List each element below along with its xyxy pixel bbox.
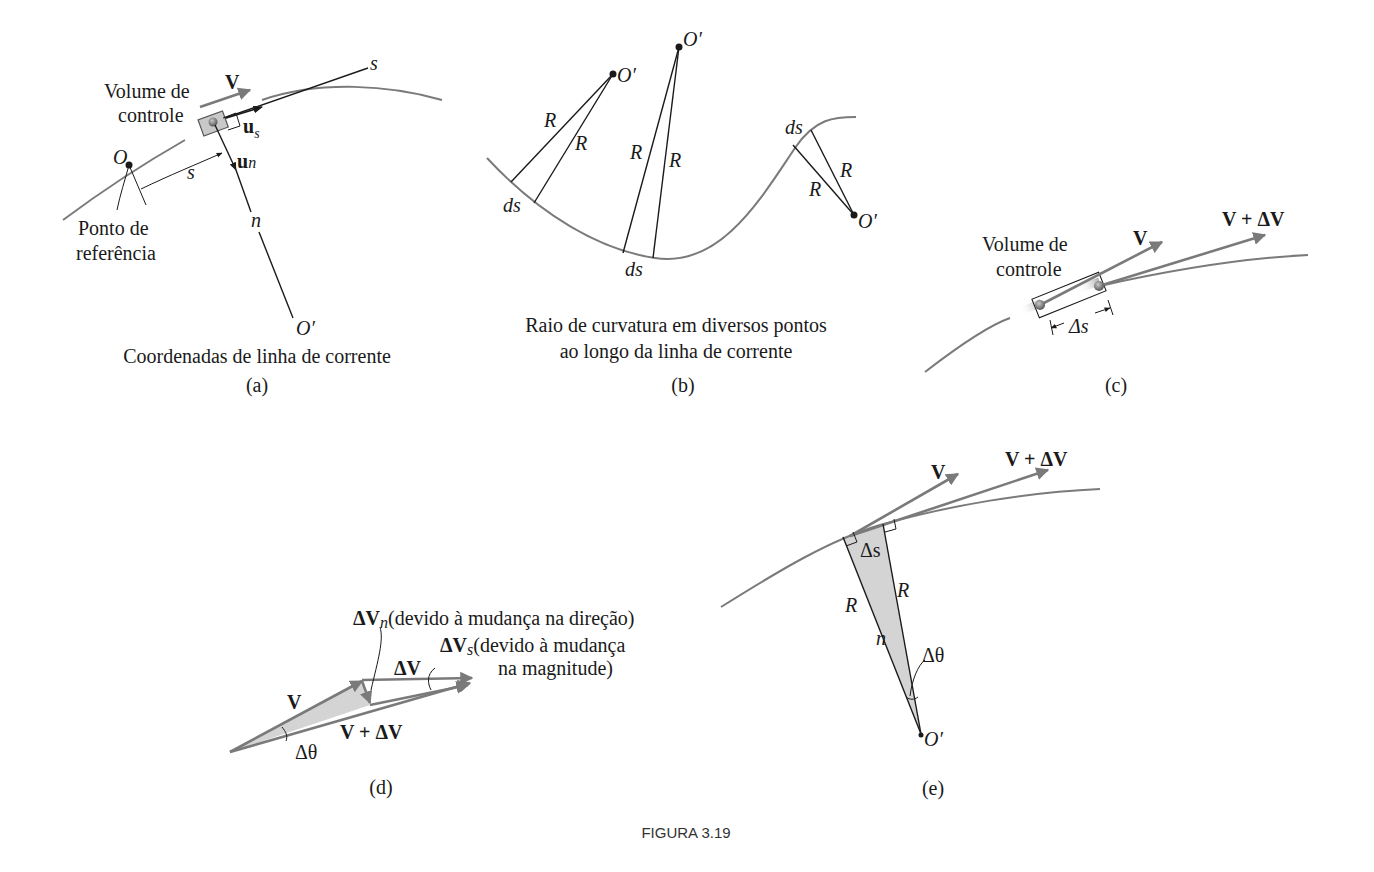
ds-label-1: ds (503, 194, 521, 216)
delta-vs-arrow (370, 685, 468, 705)
n-label: n (251, 209, 261, 231)
volume-label-c-1: Volume de (982, 233, 1068, 255)
ds-label-3: ds (785, 116, 803, 138)
caption-b-2: ao longo da linha de corrente (560, 340, 793, 363)
dv-label: ΔV (394, 657, 422, 679)
letter-e: (e) (922, 777, 944, 800)
reference-label-1: Ponto de (78, 217, 149, 239)
ds-label-2: ds (625, 258, 643, 280)
velocity-label-c: V (1133, 227, 1148, 249)
delta-s-label-c: Δs (1068, 315, 1089, 337)
center-label-b1: O′ (617, 64, 636, 86)
angle-label-e: Δθ (922, 644, 944, 666)
streamline-c (925, 318, 1010, 372)
radius-label-e-right: R (896, 579, 909, 601)
caption-b-1: Raio de curvatura em diversos pontos (525, 314, 827, 337)
n-axis (215, 125, 236, 170)
reference-leader (117, 165, 129, 210)
radius-b1b (534, 74, 613, 203)
dim-tick-right (1108, 300, 1113, 315)
streamline-e (721, 489, 1100, 607)
radius-label-3: R (629, 141, 642, 163)
streamline-b (487, 117, 856, 259)
normal-label-e: n (876, 627, 886, 649)
velocity-label-d: V (287, 691, 302, 713)
radius-label-1: R (543, 109, 556, 131)
volume-label-a-2: controle (118, 104, 184, 126)
s-axis-label: s (370, 52, 378, 74)
particle-a (209, 118, 218, 127)
n-axis-line (236, 170, 251, 212)
center-point-e (919, 733, 924, 738)
velocity-new-label-e: V + ΔV (1005, 448, 1068, 470)
angle-label-d: Δθ (295, 741, 317, 763)
velocity-label-a: V (225, 71, 240, 93)
volume-label-a-1: Volume de (104, 80, 190, 102)
origin-label: O (113, 146, 127, 168)
streamline-c-right (1100, 255, 1308, 286)
velocity-label-e: V (931, 461, 946, 483)
caption-a: Coordenadas de linha de corrente (123, 345, 391, 367)
velocity-new-label-d: V + ΔV (340, 721, 403, 743)
letter-c: (c) (1105, 374, 1127, 397)
dvs-note-2: na magnitude) (498, 657, 613, 680)
streamline-a-right (262, 87, 442, 100)
radius-label-4: R (668, 149, 681, 171)
velocity-new-label-c: V + ΔV (1222, 208, 1285, 230)
letter-a: (a) (246, 374, 268, 397)
us-label: us (243, 115, 260, 141)
panel-e: V V + ΔV Δs R R n Δθ O′ (e) (721, 448, 1100, 800)
letter-d: (d) (369, 776, 392, 799)
delta-s-label-e: Δs (860, 539, 881, 561)
un-label: un (237, 150, 256, 172)
radius-b1a (511, 74, 613, 182)
dim-arrow-right (1095, 308, 1110, 313)
panel-d: ΔVn(devido à mudança na direção) ΔVs(dev… (230, 607, 635, 799)
panel-b: O′ O′ O′ R R R R R R ds ds ds Raio de cu… (487, 28, 877, 397)
radius-label-e-left: R (844, 594, 857, 616)
radius-label-2: R (574, 132, 587, 154)
radius-label-5: R (839, 159, 852, 181)
center-label-e: O′ (924, 728, 943, 750)
n-axis-lower (259, 232, 293, 318)
figure-caption: FIGURA 3.19 (641, 824, 730, 841)
letter-b: (b) (671, 374, 694, 397)
figure-3-19: Volume de controle V s us un O s n O′ Po… (0, 0, 1374, 872)
center-label-b3: O′ (858, 210, 877, 232)
panel-a: Volume de controle V s us un O s n O′ Po… (63, 52, 442, 397)
radius-label-6: R (808, 178, 821, 200)
arc-s-label: s (187, 161, 195, 183)
center-label-b2: O′ (683, 28, 702, 50)
center-label-a: O′ (296, 317, 315, 339)
volume-label-c-2: controle (996, 258, 1062, 280)
particle-c1 (1035, 300, 1045, 310)
dvs-label: ΔVs(devido à mudança (440, 634, 626, 658)
reference-tick (129, 165, 146, 205)
right-angle-e-right (885, 519, 896, 532)
reference-label-2: referência (76, 242, 156, 264)
particle-c2 (1094, 281, 1104, 291)
panel-c: Volume de controle V V + ΔV Δs (c) (925, 208, 1308, 397)
dim-arrow-left (1051, 323, 1064, 328)
dvn-label: ΔVn(devido à mudança na direção) (353, 607, 635, 631)
